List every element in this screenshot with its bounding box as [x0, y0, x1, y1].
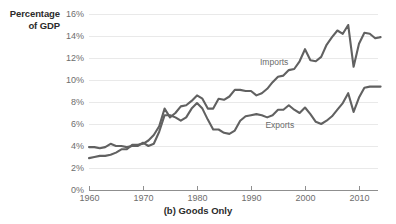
- series-line-exports: [89, 87, 381, 149]
- x-tick-label: 1980: [178, 194, 218, 203]
- x-tick-label: 1960: [70, 194, 110, 203]
- figure-caption: (b) Goods Only: [0, 205, 396, 216]
- goods-only-trade-chart: Percentage of GDP 0%2%4%6%8%10%12%14%16%…: [0, 0, 396, 224]
- y-tick-label: 12%: [58, 54, 84, 63]
- y-tick-label: 16%: [58, 10, 84, 19]
- y-tick-label: 10%: [58, 76, 84, 85]
- x-tick-label: 1970: [124, 194, 164, 203]
- series-annotation-imports: Imports: [260, 58, 288, 67]
- y-tick-label: 4%: [58, 142, 84, 151]
- y-tick-label: 6%: [58, 120, 84, 129]
- series-line-imports: [89, 25, 381, 158]
- series-annotation-exports: Exports: [265, 121, 294, 130]
- y-tick-label: 8%: [58, 98, 84, 107]
- x-tick-label: 2010: [340, 194, 380, 203]
- data-series-paths: [89, 25, 381, 158]
- y-tick-label: 14%: [58, 32, 84, 41]
- y-tick-label: 2%: [58, 164, 84, 173]
- x-tick-label: 1990: [232, 194, 272, 203]
- x-tick-label: 2000: [286, 194, 326, 203]
- x-tickmarks: [90, 186, 360, 190]
